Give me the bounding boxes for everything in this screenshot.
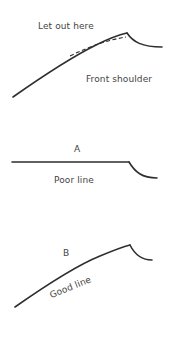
armhole-curve-b xyxy=(130,245,152,260)
shoulder-line-let-out xyxy=(70,37,126,56)
shoulder-line-original xyxy=(13,33,127,97)
poor-line-label: Poor line xyxy=(54,175,94,185)
figure-b-letter: B xyxy=(63,248,69,258)
diagram-canvas xyxy=(0,0,172,337)
armhole-curve-a xyxy=(129,162,157,178)
armhole-curve-top xyxy=(127,33,162,47)
good-shoulder-line xyxy=(15,245,130,307)
figure-a-letter: A xyxy=(74,144,80,154)
let-out-here-label: Let out here xyxy=(38,21,94,31)
front-shoulder-figure xyxy=(13,33,162,97)
front-shoulder-label: Front shoulder xyxy=(86,74,152,84)
